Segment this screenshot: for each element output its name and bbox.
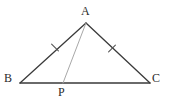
tick-mark-ab bbox=[52, 44, 59, 51]
tick-mark-ac bbox=[109, 45, 116, 52]
vertex-label-a: A bbox=[81, 5, 90, 17]
geometry-figure: A B C P bbox=[0, 0, 169, 101]
segment-ap bbox=[63, 23, 86, 83]
segment-ac bbox=[86, 23, 150, 83]
segment-ab bbox=[20, 23, 86, 83]
vertex-label-c: C bbox=[152, 72, 160, 84]
vertex-label-b: B bbox=[4, 72, 12, 84]
vertex-label-p: P bbox=[58, 86, 65, 98]
